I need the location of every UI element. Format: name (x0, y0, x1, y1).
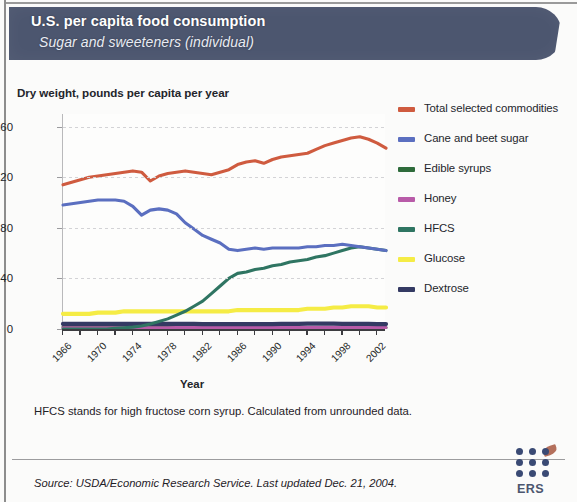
logo-dot (542, 459, 549, 466)
legend-item-label: Total selected commodities (424, 102, 558, 116)
legend-color-swatch (398, 257, 415, 262)
logo-dot (542, 448, 549, 455)
x-tick-mark (79, 329, 80, 335)
gridline (63, 127, 385, 128)
x-tick-label: 1982 (183, 340, 213, 370)
page-title: U.S. per capita food consumption (31, 13, 265, 29)
legend-item-label: Honey (424, 192, 456, 206)
series-line (63, 200, 386, 251)
x-tick-mark (254, 329, 255, 335)
x-tick-mark (114, 329, 115, 335)
figure-page: U.S. per capita food consumption Sugar a… (0, 0, 577, 502)
x-tick-label: 1978 (148, 340, 178, 370)
legend-item[interactable]: Edible syrups (398, 162, 570, 192)
y-tick-label: 40 (0, 272, 13, 284)
legend-item[interactable]: Glucose (398, 252, 570, 282)
x-tick-label: 1994 (288, 340, 318, 370)
x-tick-label: 1966 (43, 340, 73, 370)
x-tick-mark (149, 329, 150, 335)
x-tick-mark (272, 329, 273, 335)
series-line (63, 247, 386, 329)
ers-dot-grid-icon (516, 448, 556, 480)
legend-color-swatch (398, 137, 415, 142)
x-tick-mark (219, 329, 220, 335)
x-tick-mark (237, 329, 238, 335)
logo-dot (529, 459, 536, 466)
x-tick-label: 1986 (218, 340, 248, 370)
legend-color-swatch (398, 167, 415, 172)
x-tick-mark (324, 329, 325, 335)
x-tick-label: 1990 (253, 340, 283, 370)
y-tick-mark (57, 127, 62, 128)
x-axis-line (62, 329, 385, 331)
footer-divider (12, 459, 565, 460)
legend-color-swatch (398, 227, 415, 232)
x-tick-label: 1998 (323, 340, 353, 370)
page-subtitle: Sugar and sweeteners (individual) (39, 34, 254, 50)
legend-item[interactable]: Cane and beet sugar (398, 132, 570, 162)
logo-dot (529, 470, 536, 477)
x-tick-mark (359, 329, 360, 335)
page-left-rule (4, 0, 6, 502)
gridline (63, 278, 385, 279)
legend-item-label: HFCS (424, 222, 455, 236)
logo-dot (516, 470, 523, 477)
legend-item[interactable]: HFCS (398, 222, 570, 252)
legend-item-label: Dextrose (424, 282, 469, 296)
logo-dot (529, 448, 536, 455)
page-top-rule (4, 2, 577, 4)
y-tick-label: 160 (0, 121, 13, 133)
legend-item[interactable]: Total selected commodities (398, 102, 570, 132)
x-tick-mark (167, 329, 168, 335)
legend-color-swatch (398, 287, 415, 292)
legend-color-swatch (398, 107, 415, 112)
logo-dot (542, 470, 549, 477)
y-tick-label: 80 (0, 222, 13, 234)
x-tick-mark (62, 329, 63, 335)
y-axis-title: Dry weight, pounds per capita per year (17, 86, 229, 99)
x-tick-mark (184, 329, 185, 335)
legend-item-label: Edible syrups (424, 162, 491, 176)
legend-color-swatch (398, 197, 415, 202)
x-axis-title: Year (180, 378, 204, 390)
x-tick-mark (202, 329, 203, 335)
y-tick-label: 120 (0, 171, 13, 183)
x-tick-mark (376, 329, 377, 335)
ers-logo-text: ERS (517, 482, 544, 496)
chart-plot-area: 04080120160 1966197019741978198219861990… (17, 108, 387, 336)
logo-dot (516, 459, 523, 466)
legend-item[interactable]: Honey (398, 192, 570, 222)
x-tick-mark (132, 329, 133, 335)
series-line (63, 324, 386, 325)
gridline (63, 228, 385, 229)
x-tick-label: 1970 (78, 340, 108, 370)
y-tick-mark (57, 278, 62, 279)
x-tick-mark (306, 329, 307, 335)
source-line: Source: USDA/Economic Research Service. … (34, 477, 397, 489)
y-tick-label: 0 (0, 323, 13, 335)
x-tick-mark (97, 329, 98, 335)
x-tick-mark (289, 329, 290, 335)
header-banner: U.S. per capita food consumption Sugar a… (9, 7, 562, 60)
y-tick-mark (57, 228, 62, 229)
legend-item[interactable]: Dextrose (398, 282, 570, 312)
series-line (63, 306, 386, 314)
logo-dot (516, 448, 523, 455)
footnote: HFCS stands for high fructose corn syrup… (34, 404, 466, 419)
x-tick-label: 2002 (358, 340, 388, 370)
x-tick-mark (341, 329, 342, 335)
series-lines (63, 114, 386, 329)
gridline (63, 177, 385, 178)
y-tick-mark (57, 177, 62, 178)
legend-item-label: Cane and beet sugar (424, 132, 529, 146)
legend-item-label: Glucose (424, 252, 465, 266)
plot-canvas (62, 114, 385, 329)
chart-legend: Total selected commoditiesCane and beet … (398, 102, 570, 312)
ers-logo: ERS (516, 448, 568, 498)
x-tick-label: 1974 (113, 340, 143, 370)
